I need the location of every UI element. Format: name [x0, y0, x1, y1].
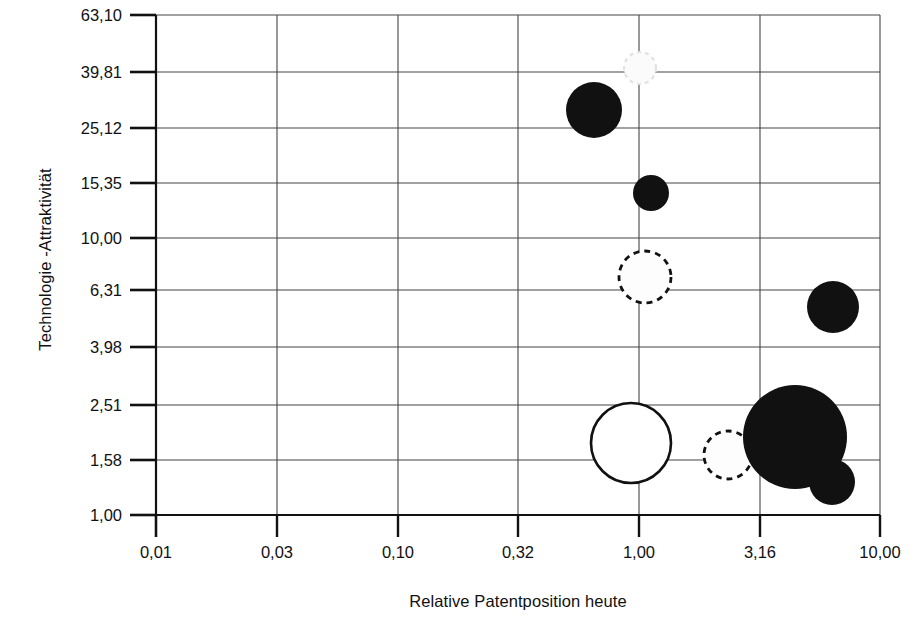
x-tick-label: 3,16 [715, 543, 805, 562]
bubble-b5 [807, 281, 859, 333]
bubble-b9 [809, 459, 855, 505]
bubble-series [566, 52, 859, 505]
bubble-b3 [633, 175, 669, 211]
x-tick-label: 0,10 [353, 543, 443, 562]
bubble-b1 [624, 52, 656, 84]
x-tick-label: 0,32 [473, 543, 563, 562]
x-tick-label: 1,00 [594, 543, 684, 562]
bubble-b6 [591, 403, 671, 483]
x-tick-label: 0,03 [232, 543, 322, 562]
x-tick-label: 0,01 [111, 543, 201, 562]
bubble-b4 [619, 251, 671, 303]
bubble-chart: Technologie -Attraktivität 1,001,582,513… [0, 0, 914, 623]
bubble-b2 [566, 82, 622, 138]
x-tick-label: 10,00 [835, 543, 914, 562]
x-axis-title: Relative Patentposition heute [156, 592, 880, 611]
plot-area [0, 0, 914, 623]
